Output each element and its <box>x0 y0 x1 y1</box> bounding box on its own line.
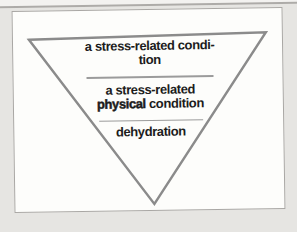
level-3-line-1: dehydration <box>116 124 186 139</box>
separator-1 <box>87 75 214 78</box>
screenshot-root: a stress-related condi- tion a stress-re… <box>0 0 297 232</box>
level-2-line-2: physical condition <box>97 96 204 112</box>
triangle-content: a stress-related condi- tion a stress-re… <box>15 37 285 141</box>
level-2-bold-word: physical <box>97 96 146 112</box>
level-2-rest: condition <box>146 95 204 111</box>
diagram-card: a stress-related condi- tion a stress-re… <box>12 7 286 213</box>
level-1-line-2: tion <box>139 53 161 67</box>
separator-2 <box>99 119 203 122</box>
